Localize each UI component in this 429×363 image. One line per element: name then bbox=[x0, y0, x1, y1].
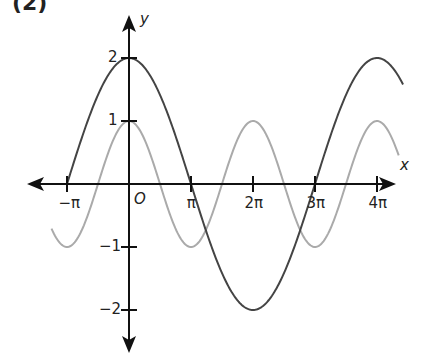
y-axis-label: y bbox=[140, 12, 149, 27]
x-tick-label: π bbox=[187, 196, 196, 211]
origin-label: O bbox=[134, 192, 146, 207]
y-tick-label: 1 bbox=[108, 113, 118, 128]
y-tick-label: 2 bbox=[108, 50, 118, 65]
x-tick-label: −π bbox=[59, 196, 81, 211]
y-tick-label: −1 bbox=[99, 239, 121, 254]
x-tick-label: 2π bbox=[245, 196, 264, 211]
graph-canvas bbox=[0, 0, 429, 363]
y-tick-label: −2 bbox=[99, 302, 121, 317]
x-tick-label: 4π bbox=[369, 196, 388, 211]
x-axis-label: x bbox=[400, 158, 409, 173]
axes-group bbox=[27, 15, 396, 353]
x-tick-label: 3π bbox=[307, 196, 326, 211]
